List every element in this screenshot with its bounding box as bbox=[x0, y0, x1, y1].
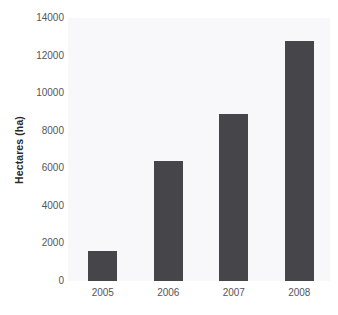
y-axis-tick-label: 6000 bbox=[22, 163, 64, 173]
bar-chart-figure: Hectares (ha) 02000400060008000100001200… bbox=[0, 0, 338, 315]
x-axis-tick-label: 2007 bbox=[223, 288, 245, 298]
y-axis-tick-label: 2000 bbox=[22, 238, 64, 248]
y-axis-tick-label: 10000 bbox=[22, 88, 64, 98]
bar bbox=[154, 161, 183, 281]
bar-series bbox=[68, 18, 330, 281]
x-axis-tick-label: 2008 bbox=[288, 288, 310, 298]
plot-area bbox=[68, 18, 330, 281]
y-axis-tick-label: 14000 bbox=[22, 13, 64, 23]
y-axis-tick-label: 8000 bbox=[22, 126, 64, 136]
y-axis-tick-labels: 02000400060008000100001200014000 bbox=[22, 0, 64, 315]
bar bbox=[219, 114, 248, 281]
bar bbox=[285, 41, 314, 281]
y-axis-tick-label: 0 bbox=[22, 276, 64, 286]
x-axis-tick-label: 2006 bbox=[157, 288, 179, 298]
x-axis-tick-label: 2005 bbox=[92, 288, 114, 298]
y-axis-tick-label: 4000 bbox=[22, 201, 64, 211]
bar bbox=[88, 251, 117, 281]
x-axis-tick-labels: 2005200620072008 bbox=[68, 288, 330, 308]
y-axis-tick-label: 12000 bbox=[22, 51, 64, 61]
